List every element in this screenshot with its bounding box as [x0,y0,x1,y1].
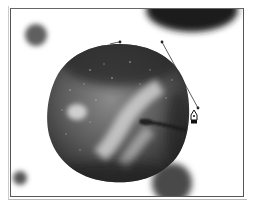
direction-handle[interactable] [161,41,164,44]
pen-tool-icon [191,110,197,124]
blurred-blob-top-left [25,24,47,46]
direction-handle[interactable] [197,107,200,110]
blurred-apple-top-right [146,0,238,32]
blurred-blob-bottom-left [13,171,27,185]
canvas-artwork[interactable] [0,0,256,206]
path-segment [110,42,120,44]
anchor-point[interactable] [119,41,122,44]
